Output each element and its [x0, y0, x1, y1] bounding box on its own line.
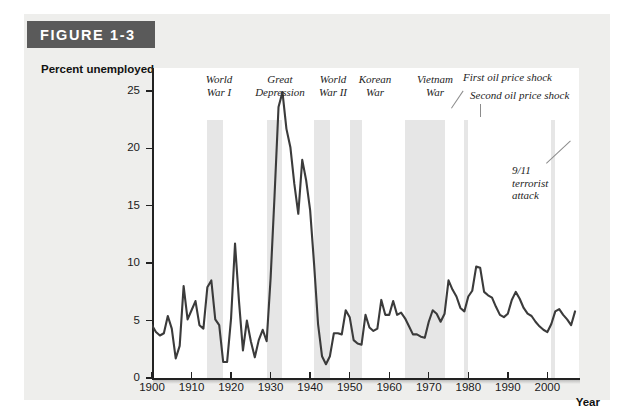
annotation-sept11-line1: 9/11	[512, 164, 548, 177]
x-axis-title: Year	[576, 396, 600, 408]
annotation-korean-war: Korean War	[346, 73, 404, 98]
figure-page: FIGURE 1-3 Percent unemployed 0510152025…	[0, 0, 627, 413]
x-tick-label: 1910	[172, 381, 212, 393]
x-tick-label: 1900	[132, 381, 172, 393]
series-line	[152, 92, 575, 364]
annotation-vietnam-line1: Vietnam	[404, 73, 466, 86]
annotation-vietnam-line2: War	[404, 86, 466, 99]
figure-number-label: FIGURE 1-3	[27, 27, 136, 43]
annotation-vietnam-war: Vietnam War	[404, 73, 466, 98]
annotation-korea-line1: Korean	[346, 73, 404, 86]
unemployment-line-series	[152, 68, 579, 379]
annotation-september-11: 9/11 terrorist attack	[512, 164, 548, 202]
annotation-sept11-line2: terrorist	[512, 177, 548, 190]
leader-line-second-oil-shock	[480, 104, 481, 117]
x-tick-label: 1970	[409, 381, 449, 393]
x-tick-label: 1960	[369, 381, 409, 393]
x-tick-label: 1980	[448, 381, 488, 393]
x-tick-label: 1950	[330, 381, 370, 393]
y-tick-label: 5	[110, 314, 140, 326]
annotation-korea-line2: War	[346, 86, 404, 99]
y-tick-label: 25	[110, 84, 140, 96]
y-tick-label: 10	[110, 256, 140, 268]
x-tick-label: 2000	[527, 381, 567, 393]
x-tick-label: 1920	[211, 381, 251, 393]
y-tick-label: 15	[110, 199, 140, 211]
x-tick-label: 1940	[290, 381, 330, 393]
annotation-second-oil-price-shock: Second oil price shock	[470, 89, 569, 102]
figure-number-plaque: FIGURE 1-3	[27, 21, 155, 48]
y-tick-label: 20	[110, 141, 140, 153]
annotation-sept11-line3: attack	[512, 189, 548, 202]
x-tick-label: 1930	[251, 381, 291, 393]
annotation-first-oil-price-shock: First oil price shock	[463, 71, 552, 84]
x-tick-label: 1990	[488, 381, 528, 393]
y-axis-title: Percent unemployed	[41, 63, 154, 75]
